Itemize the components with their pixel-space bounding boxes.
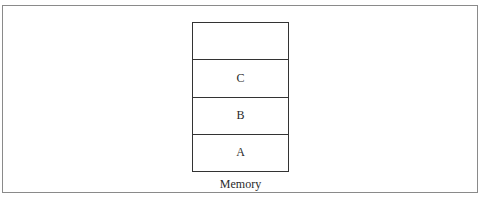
memory-cell-c: C	[193, 59, 288, 96]
memory-cell-b: B	[193, 97, 288, 134]
memory-caption: Memory	[192, 177, 289, 192]
memory-cell-a: A	[193, 134, 288, 171]
memory-stack: C B A	[192, 22, 289, 172]
memory-cell-empty	[193, 23, 288, 59]
